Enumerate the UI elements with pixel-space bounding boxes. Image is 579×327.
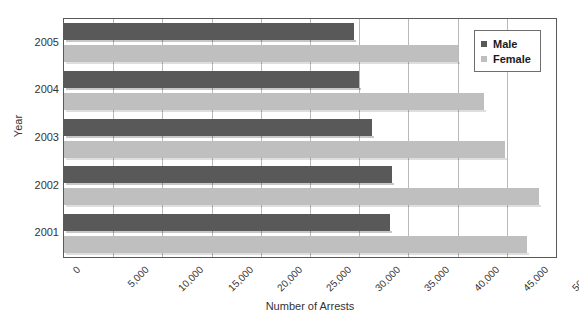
legend-item-female: Female — [481, 51, 531, 66]
x-tick-20000: 20,000 — [275, 264, 304, 293]
x-tick-35000: 35,000 — [422, 264, 451, 293]
y-tick-2002: 2002 — [3, 179, 59, 191]
bar-female-2003 — [64, 141, 505, 158]
bar-female-2001 — [64, 236, 527, 253]
legend-swatch-icon — [481, 56, 487, 62]
y-tick-2003: 2003 — [3, 131, 59, 143]
chart-legend: MaleFemale — [474, 30, 541, 72]
y-tick-2005: 2005 — [3, 36, 59, 48]
legend-item-male: Male — [481, 36, 531, 51]
bar-male-2002 — [64, 166, 392, 183]
bar-male-2003 — [64, 119, 372, 136]
x-tick-25000: 25,000 — [324, 264, 353, 293]
y-tick-2004: 2004 — [3, 83, 59, 95]
bar-male-2005 — [64, 23, 354, 40]
y-tick-2001: 2001 — [3, 226, 59, 238]
legend-swatch-icon — [481, 41, 487, 47]
bar-female-2005 — [64, 45, 458, 62]
x-axis-title: Number of Arrests — [63, 300, 557, 312]
bar-female-2004 — [64, 93, 484, 110]
x-axis-tick-labels: 05,00010,00015,00020,00025,00030,00035,0… — [63, 258, 557, 302]
bar-female-2002 — [64, 188, 539, 205]
legend-label: Female — [493, 53, 531, 65]
gridline — [458, 19, 459, 257]
x-tick-45000: 45,000 — [521, 264, 550, 293]
y-axis-tick-labels: 20052004200320022001 — [0, 18, 59, 258]
bar-male-2001 — [64, 214, 390, 231]
x-tick-40000: 40,000 — [472, 264, 501, 293]
x-tick-10000: 10,000 — [176, 264, 205, 293]
bar-male-2004 — [64, 71, 359, 88]
x-tick-50000: 50,000 — [570, 264, 579, 293]
bar-chart: Year 20052004200320022001 05,00010,00015… — [0, 0, 579, 327]
x-tick-5000: 5,000 — [126, 264, 151, 289]
x-tick-15000: 15,000 — [226, 264, 255, 293]
x-tick-0: 0 — [71, 264, 83, 276]
legend-label: Male — [493, 38, 517, 50]
x-tick-30000: 30,000 — [373, 264, 402, 293]
